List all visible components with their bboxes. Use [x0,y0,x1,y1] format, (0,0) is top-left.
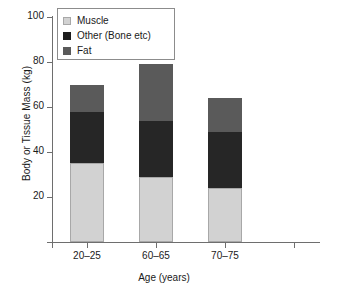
legend-label-other: Other (Bone etc) [77,30,151,41]
legend-label-muscle: Muscle [77,15,109,26]
y-tick-60: 60 [47,107,52,108]
bar-segment-fat [208,98,242,132]
bar-segment-muscle [70,163,104,242]
bar-70-75[interactable] [208,98,242,242]
x-axis-line [52,242,320,243]
y-axis-line [52,16,53,243]
bar-segment-fat [70,85,104,112]
bar-60-65[interactable] [139,64,173,242]
bar-segment-muscle [208,188,242,242]
x-tick-2 [156,243,157,248]
x-tick-origin [52,243,53,248]
y-tick-label-20: 20 [33,190,44,201]
bar-segment-other [208,132,242,188]
bar-segment-other [70,112,104,164]
y-axis-title: Body or Tissue Mass (kg) [21,24,32,224]
legend: Muscle Other (Bone etc) Fat [57,8,175,60]
y-tick-label-40: 40 [33,145,44,156]
y-tick-label-100: 100 [27,10,44,21]
bar-segment-other [139,121,173,177]
stacked-bar-chart: Body or Tissue Mass (kg) 100 80 60 40 20 [0,0,345,297]
x-category-label-2: 60–65 [126,250,186,262]
y-tick-40: 40 [47,152,52,153]
y-tick-label-80: 80 [33,55,44,66]
legend-item-fat[interactable]: Fat [63,43,174,58]
y-tick-label-60: 60 [33,100,44,111]
x-axis-title: Age (years) [52,272,276,283]
y-tick-20: 20 [47,197,52,198]
x-category-label-1: 20–25 [57,250,117,262]
x-category-label-3: 70–75 [195,250,255,262]
legend-item-muscle[interactable]: Muscle [63,13,174,28]
fat-swatch-icon [63,47,71,55]
x-tick-4 [294,243,295,248]
legend-item-other[interactable]: Other (Bone etc) [63,28,174,43]
y-tick-100: 100 [47,17,52,18]
legend-label-fat: Fat [77,45,91,56]
bar-20-25[interactable] [70,85,104,243]
bar-segment-fat [139,64,173,120]
muscle-swatch-icon [63,17,71,25]
x-tick-1 [87,243,88,248]
other-swatch-icon [63,32,71,40]
x-tick-3 [225,243,226,248]
y-tick-80: 80 [47,62,52,63]
bar-segment-muscle [139,177,173,242]
